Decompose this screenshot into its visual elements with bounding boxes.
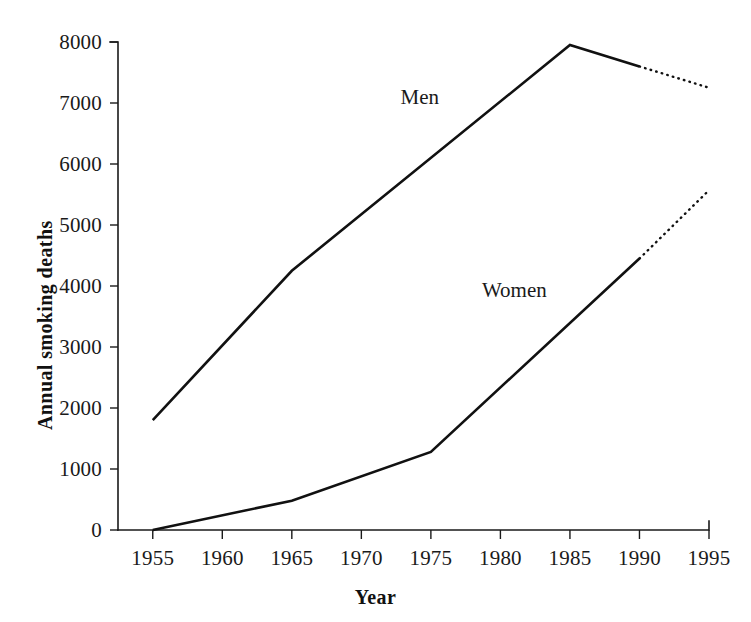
x-axis-ticks [153, 530, 709, 539]
x-axis-tick-label: 1965 [270, 546, 313, 571]
y-axis-tick-label: 6000 [0, 152, 102, 177]
y-axis-ticks [110, 42, 118, 530]
series-label-men: Men [401, 84, 440, 109]
y-axis-tick-label: 0 [0, 518, 102, 543]
y-axis-tick-label: 1000 [0, 457, 102, 482]
y-axis-title: Annual smoking deaths [34, 220, 57, 430]
chart-plot-area [0, 0, 751, 622]
series-line-men [153, 45, 640, 420]
x-axis-tick-label: 1985 [549, 546, 592, 571]
x-axis-tick-label: 1955 [131, 546, 174, 571]
series-projection-women [639, 190, 709, 258]
series-projection-men [639, 66, 709, 87]
y-axis-tick-label: 7000 [0, 91, 102, 116]
x-axis-tick-label: 1970 [340, 546, 383, 571]
x-axis-tick-label: 1975 [409, 546, 452, 571]
axes [110, 42, 709, 539]
series-line-women [153, 259, 640, 530]
x-axis-line [118, 521, 709, 530]
x-axis-tick-label: 1995 [688, 546, 731, 571]
data-series [153, 45, 709, 530]
x-axis-tick-label: 1980 [479, 546, 522, 571]
x-axis-title: Year [0, 586, 751, 609]
x-axis-tick-label: 1990 [618, 546, 661, 571]
smoking-deaths-line-chart: 010002000300040005000600070008000 195519… [0, 0, 751, 622]
x-axis-tick-label: 1960 [201, 546, 244, 571]
series-label-women: Women [482, 278, 547, 303]
y-axis-tick-label: 8000 [0, 30, 102, 55]
